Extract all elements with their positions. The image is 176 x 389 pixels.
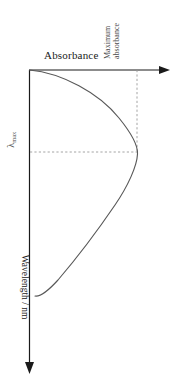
lambda-max-subscript: max — [10, 132, 17, 143]
absorbance-axis — [29, 66, 170, 74]
wavelength-axis-arrowhead — [25, 362, 34, 374]
maximum-absorbance-annotation: Maximum absorbance — [103, 3, 123, 59]
lambda-max-annotation: λmax — [6, 132, 17, 148]
absorption-spectrum-figure: Absorbance Maximum absorbance λmax Wavel… — [0, 0, 176, 389]
absorbance-axis-arrowhead — [159, 66, 170, 74]
wavelength-axis — [25, 70, 34, 374]
maximum-absorbance-line-2: absorbance — [112, 3, 121, 59]
maximum-absorbance-line-1: Maximum — [103, 3, 112, 59]
lambda-symbol: λ — [5, 143, 16, 148]
wavelength-axis-label: Wavelength / nm — [19, 250, 29, 324]
absorbance-axis-label: Absorbance — [44, 50, 99, 62]
absorption-curve — [30, 70, 138, 296]
